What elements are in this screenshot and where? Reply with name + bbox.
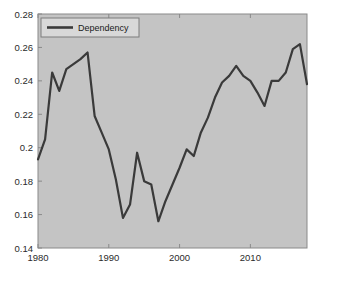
y-tick-label: 0.22 [15, 109, 34, 120]
y-tick-label: 0.18 [15, 176, 34, 187]
plot-background [38, 14, 307, 248]
x-tick-label: 2010 [240, 252, 261, 263]
chart-figure: 0.140.160.180.20.220.240.260.28 19801990… [0, 0, 338, 282]
y-tick-label: 0.28 [15, 9, 34, 20]
y-tick-label: 0.2 [20, 142, 33, 153]
line-chart: 0.140.160.180.20.220.240.260.28 19801990… [0, 0, 338, 282]
legend-label-dependency: Dependency [78, 23, 129, 33]
x-tick-label: 1990 [98, 252, 119, 263]
y-tick-label: 0.26 [15, 42, 34, 53]
y-tick-label: 0.16 [15, 209, 34, 220]
chart-legend[interactable]: Dependency [41, 18, 139, 37]
plot-container: 0.140.160.180.20.220.240.260.28 19801990… [0, 0, 338, 282]
x-tick-label: 2000 [169, 252, 190, 263]
y-tick-label: 0.24 [15, 75, 34, 86]
x-tick-label: 1980 [27, 252, 48, 263]
